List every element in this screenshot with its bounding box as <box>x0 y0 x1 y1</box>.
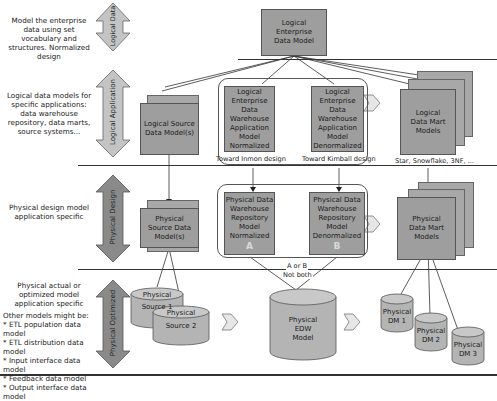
physical-dw-normalized-model: Physical Data Warehouse Repository Model… <box>224 192 275 255</box>
physical-dw-denormalized-label: Physical Data Warehouse Repository Model… <box>310 196 364 241</box>
physical-edw-label: Physical EDW Model <box>270 316 336 343</box>
chevron-right-icon <box>222 314 238 330</box>
cylinder-line: DM 1 <box>381 317 413 326</box>
logical-application-arrow-label: Logical Application <box>109 72 117 152</box>
cylinder-line: Physical <box>452 341 484 350</box>
cylinder-line: DM 2 <box>415 336 447 345</box>
kimball-caption: Toward Kimball design <box>302 155 376 163</box>
physical-dm-1-label: Physical DM 1 <box>381 308 413 326</box>
cylinder-line: Physical <box>153 309 209 318</box>
cylinder-line: Source 2 <box>153 322 209 331</box>
cylinder-line: Physical <box>270 316 336 325</box>
cylinder-line: Physical <box>381 308 413 317</box>
cylinder-line: Physical <box>415 327 447 336</box>
other-model-item: * Output interface data model <box>3 383 103 401</box>
cylinder-line: EDW <box>270 325 336 334</box>
physical-dw-denormalized-model: Physical Data Warehouse Repository Model… <box>309 192 365 255</box>
physical-dm-2-label: Physical DM 2 <box>415 327 447 345</box>
physical-dw-normalized-label: Physical Data Warehouse Repository Model… <box>225 196 274 241</box>
cylinder-line: DM 3 <box>452 350 484 359</box>
logical-edw-denormalized-model: Logical Enterprise Data Warehouse Applic… <box>311 86 364 152</box>
chevron-right-icon <box>344 314 360 330</box>
physical-data-mart-models: Physical Data Mart Models <box>397 197 456 260</box>
option-a-label: A <box>246 242 253 251</box>
cylinder-line: Physical <box>131 291 183 300</box>
logical-data-mart-models: Logical Data Mart Models <box>400 89 456 155</box>
logical-data-arrow-label: Logical Data <box>109 1 117 51</box>
option-b-label: B <box>334 242 341 251</box>
physical-dm-3-label: Physical DM 3 <box>452 341 484 359</box>
not-both-caption: Not both <box>282 271 313 279</box>
logical-enterprise-data-model: Logical Enterprise Data Model <box>261 9 327 56</box>
physical-source-2-label: Physical Source 2 <box>153 309 209 331</box>
physical-design-arrow-label: Physical Design <box>109 177 117 257</box>
data-mart-types-caption: Star, Snowflake, 3NF, ... <box>395 157 474 165</box>
physical-source-data-model: Physical Source Data Model(s) <box>140 208 199 248</box>
logical-source-data-model: Logical Source Data Model(s) <box>140 103 199 155</box>
cylinder-line: Model <box>270 334 336 343</box>
physical-optimized-arrow-label: Physical Optimized <box>109 278 117 368</box>
inmon-caption: Toward Inmon design <box>216 155 286 163</box>
a-or-b-caption: A or B <box>286 262 308 270</box>
logical-edw-normalized-model: Logical Enterprise Data Warehouse Applic… <box>224 86 275 152</box>
